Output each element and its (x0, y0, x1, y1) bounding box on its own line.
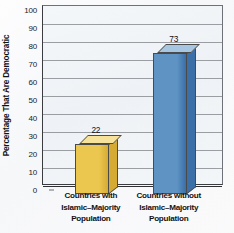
y-tick-label-80: 80 (12, 42, 37, 51)
gridline-90 (43, 24, 222, 25)
y-tick-label-50: 50 (12, 96, 37, 105)
bar-0-value-label: 22 (76, 125, 116, 135)
y-tick-label-40: 40 (12, 114, 37, 123)
bar-1-front-face (153, 53, 187, 194)
bar-0-front-face (75, 144, 109, 194)
gridline-80 (43, 42, 222, 43)
y-tick-label-60: 60 (12, 78, 37, 87)
bar-0-side-face (109, 137, 118, 194)
category-label-1-line-1: Islamic–Majority (124, 202, 214, 214)
y-tick-label-30: 30 (12, 132, 37, 141)
bar-1-side-face (187, 46, 196, 194)
y-tick-label-10: 10 (12, 168, 37, 177)
plot-area: 22 73 (42, 5, 223, 185)
y-tick-label-90: 90 (12, 24, 37, 33)
category-label-0-line-2: Population (46, 213, 136, 225)
y-axis-title: Percentage That Are Democratic (3, 34, 12, 156)
bar-countries-without-islamic-majority[interactable] (153, 53, 187, 184)
y-tick-label-0: 0 (12, 186, 37, 195)
category-label-1-line-2: Population (124, 213, 214, 225)
y-tick-label-100: 100 (12, 6, 37, 15)
category-label-0-line-0: Countries with (46, 190, 136, 202)
category-label-0-line-1: Islamic–Majority (46, 202, 136, 214)
y-axis-tick-labels: 0102030405060708090100 (12, 5, 37, 185)
category-label-1: Countries withoutIslamic–MajorityPopulat… (124, 190, 214, 225)
category-label-0: Countries withIslamic–MajorityPopulation (46, 190, 136, 225)
x-axis-category-labels: Countries withIslamic–MajorityPopulation… (42, 190, 224, 233)
y-tick-label-20: 20 (12, 150, 37, 159)
y-tick-label-70: 70 (12, 60, 37, 69)
bar-countries-with-islamic-majority[interactable] (75, 144, 109, 184)
chart-figure: Percentage That Are Democratic 010203040… (0, 0, 234, 233)
bar-1-value-label: 73 (154, 34, 194, 44)
category-label-1-line-0: Countries without (124, 190, 214, 202)
